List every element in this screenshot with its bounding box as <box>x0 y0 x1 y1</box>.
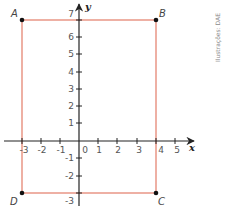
y-tick-label: -1 <box>65 153 74 163</box>
vertex-a-point <box>20 18 25 23</box>
y-tick-label: -2 <box>65 171 74 181</box>
vertex-b-point <box>154 18 159 23</box>
x-tick-label: -2 <box>38 145 47 155</box>
vertices <box>20 18 159 196</box>
y-tick-label: -3 <box>65 196 74 206</box>
x-tick-label: 2 <box>115 145 121 155</box>
y-tick-label: 3 <box>68 84 74 94</box>
vertex-c-point <box>154 191 159 196</box>
image-credit: Ilustrações: DAE <box>214 6 224 66</box>
origin-label: 0 <box>82 145 88 155</box>
credit-text: Ilustrações: DAE <box>214 13 221 62</box>
y-tick-label: 7 <box>68 9 74 19</box>
x-tick-label: -3 <box>20 145 29 155</box>
y-tick-label: 4 <box>68 67 74 77</box>
vertex-d-label: D <box>10 196 18 206</box>
vertex-c-label: C <box>158 196 165 206</box>
x-tick-label: 1 <box>96 145 102 155</box>
coordinate-plane: -3 -2 -1 0 1 2 3 4 5 1 2 3 4 5 6 7 -1 -2… <box>0 0 227 206</box>
y-axis-label: y <box>84 1 92 12</box>
y-tick-label: 5 <box>68 49 74 59</box>
x-tick-label: 3 <box>136 145 142 155</box>
y-tick-label: 1 <box>68 118 74 128</box>
y-tick-label: 6 <box>68 32 74 42</box>
rectangle-abcd <box>22 20 156 193</box>
vertex-b-label: B <box>159 8 166 19</box>
vertex-a-label: A <box>10 8 18 19</box>
vertex-d-point <box>20 191 25 196</box>
x-tick-label: 4 <box>158 145 164 155</box>
x-tick-label: 5 <box>174 145 180 155</box>
x-axis-label: x <box>188 142 196 153</box>
y-tick-label: 2 <box>68 101 74 111</box>
